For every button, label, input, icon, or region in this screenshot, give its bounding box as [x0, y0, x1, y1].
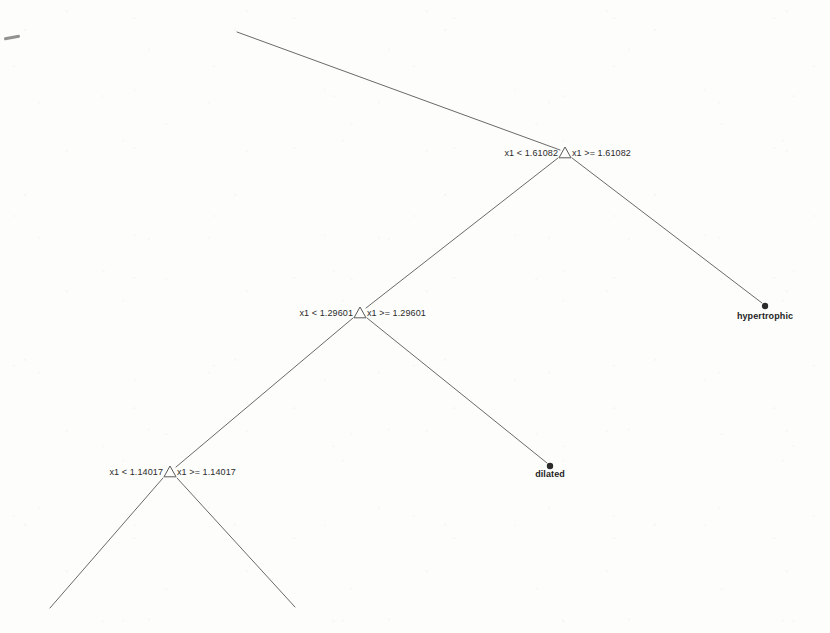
node-1-marker	[559, 147, 571, 158]
edge-n3-left	[50, 478, 163, 608]
edge-root-incoming	[237, 32, 560, 150]
edge-n1-left	[366, 158, 558, 308]
leaf-label-dilated: dilated	[535, 470, 565, 479]
edge-n2-right	[367, 318, 547, 463]
edge-n2-left	[176, 318, 353, 467]
node-2-marker	[354, 307, 366, 318]
node-3-left-label: x1 < 1.14017	[110, 468, 164, 477]
tree-node-markers	[164, 147, 768, 477]
node-1-left-label: x1 < 1.61082	[505, 149, 559, 158]
leaf-label-hypertrophic: hypertrophic	[737, 312, 793, 321]
node-2-right-label: x1 >= 1.29601	[367, 309, 426, 318]
edge-n3-right	[177, 478, 295, 607]
node-2-left-label: x1 < 1.29601	[300, 309, 354, 318]
node-1-right-label: x1 >= 1.61082	[572, 149, 631, 158]
node-3-right-label: x1 >= 1.14017	[177, 468, 236, 477]
node-3-marker	[164, 466, 176, 477]
edge-n1-right	[572, 158, 762, 303]
tree-edges	[50, 32, 762, 608]
leaf-hypertrophic-marker	[762, 303, 768, 309]
decision-tree-figure: x1 < 1.61082 x1 >= 1.61082 x1 < 1.29601 …	[0, 0, 830, 633]
